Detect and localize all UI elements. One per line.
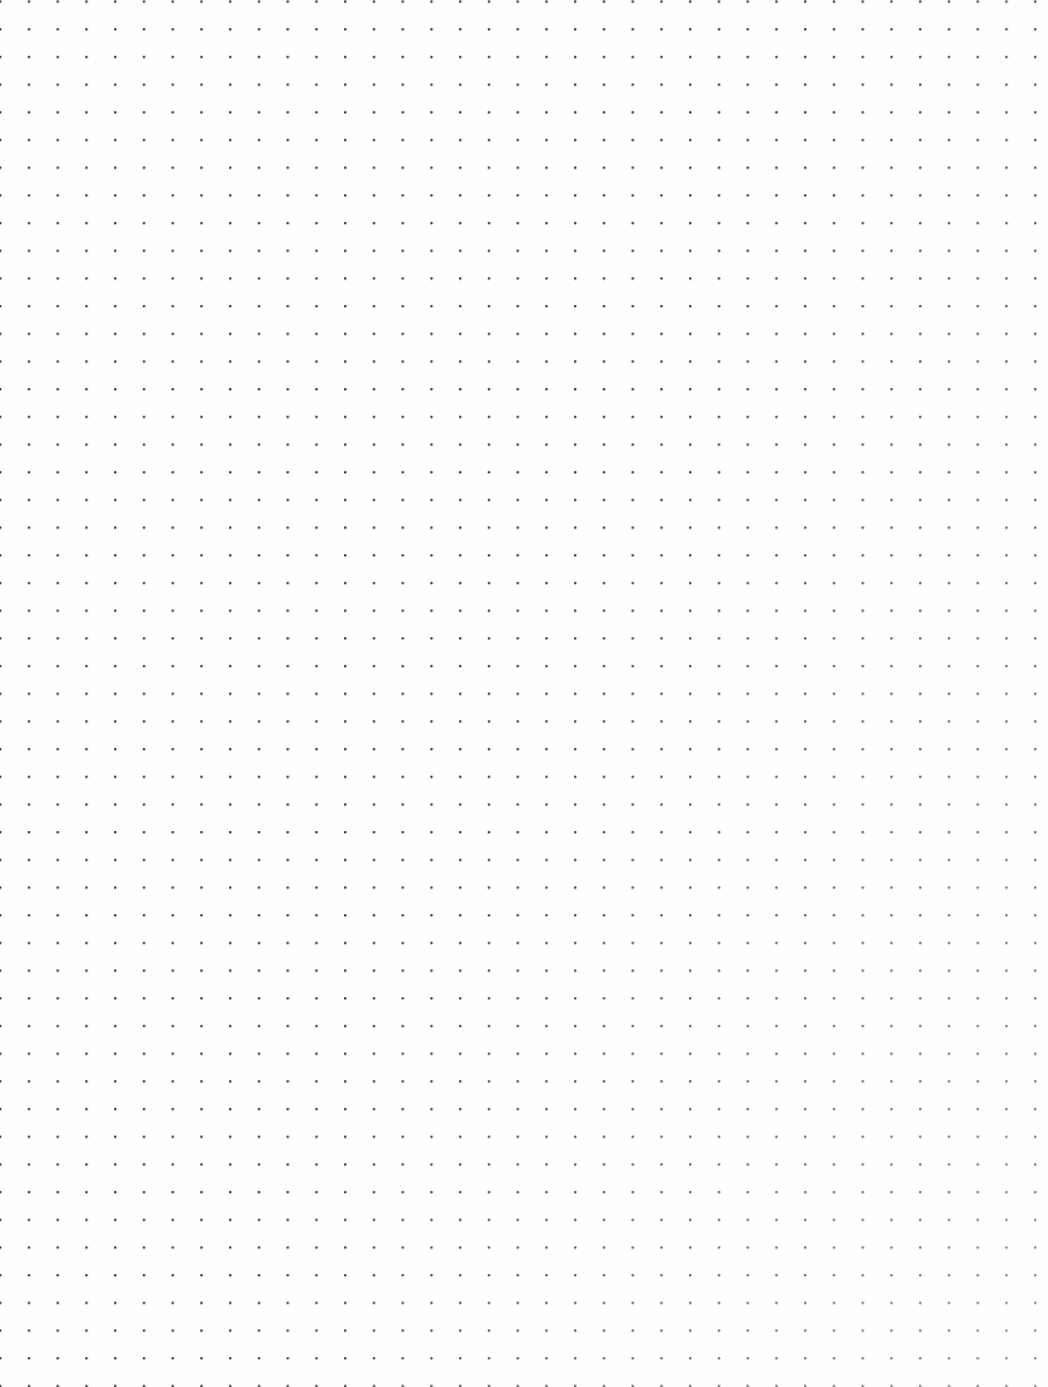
page-vignette (0, 0, 1048, 1387)
dot-grid-dots (0, 0, 1048, 1387)
dot-grid (0, 0, 1048, 1387)
dot-grid-page (0, 0, 1048, 1387)
